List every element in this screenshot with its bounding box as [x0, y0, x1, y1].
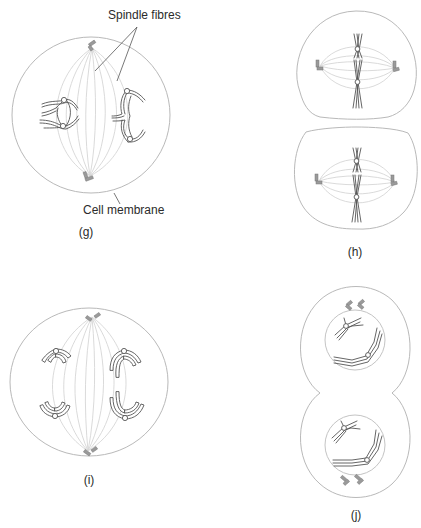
diagram-canvas [0, 0, 421, 528]
panel-label-i: (i) [84, 473, 95, 487]
panel-i-cell [10, 308, 168, 456]
centriole-icon [345, 299, 364, 310]
nucleus-j-top [325, 310, 385, 370]
cell-membrane-label: Cell membrane [83, 203, 164, 217]
cell-membrane-i [10, 308, 168, 456]
leader-line [95, 27, 137, 71]
centriole-icon [393, 61, 400, 72]
panel-label-j: (j) [351, 508, 362, 522]
chromosome-pair-left-g [40, 97, 79, 129]
chromosome-j-bottom-2 [333, 430, 382, 466]
chromosome-j-top-1 [335, 318, 363, 340]
panel-label-g: (g) [79, 225, 94, 239]
centriole-icon [391, 175, 398, 186]
panel-label-h: (h) [348, 245, 363, 259]
spindle-fibres-i [52, 317, 126, 451]
centriole-icon [340, 474, 363, 485]
leader-line [117, 27, 137, 81]
chromosome-i-right-bottom [110, 392, 144, 421]
panel-g-cell [12, 27, 170, 204]
spindle-fibres-g [56, 48, 127, 176]
spindle-fibres-label: Spindle fibres [108, 8, 181, 22]
chromosome-pair-right-g [112, 88, 145, 142]
panel-j-cell [300, 287, 410, 498]
panel-h-cells [294, 11, 417, 229]
chromosome-j-bottom-1 [332, 421, 360, 443]
